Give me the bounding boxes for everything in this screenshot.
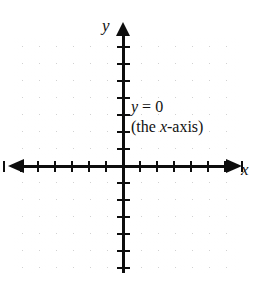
y-axis-tick xyxy=(117,80,130,82)
annotation-variable-x: x xyxy=(160,118,167,135)
y-axis-tick xyxy=(117,233,130,235)
x-axis-tick xyxy=(207,161,209,172)
x-axis-tick xyxy=(71,161,73,172)
dotted-grid xyxy=(13,37,241,273)
x-axis-tick xyxy=(54,161,56,172)
x-axis-tick xyxy=(156,161,158,172)
x-axis-tick xyxy=(173,161,175,172)
y-axis-tick xyxy=(117,46,130,48)
y-axis-tick xyxy=(117,148,130,150)
y-axis-tick xyxy=(117,97,130,99)
annotation-equals-zero: = 0 xyxy=(138,98,163,115)
coordinate-plane-figure: y x y = 0 (the x-axis) xyxy=(0,0,261,281)
x-axis-tick xyxy=(224,161,226,172)
y-axis-tick xyxy=(117,63,130,65)
x-axis-tick xyxy=(3,161,5,172)
y-axis-up-arrow-icon xyxy=(116,22,130,36)
y-axis-tick xyxy=(117,267,130,269)
y-axis-tick xyxy=(117,182,130,184)
y-axis-label: y xyxy=(102,17,110,34)
annotation-paren-open: (the xyxy=(131,118,160,135)
x-axis-tick xyxy=(20,161,22,172)
x-axis-right-arrow-icon xyxy=(226,159,242,173)
y-axis-tick xyxy=(117,131,130,133)
y-axis-tick xyxy=(117,250,130,252)
x-axis-tick xyxy=(139,161,141,172)
y-axis-tick xyxy=(117,199,130,201)
x-axis-tick xyxy=(190,161,192,172)
x-axis-tick xyxy=(37,161,39,172)
x-axis-tick xyxy=(105,161,107,172)
annotation-line-equation: y = 0 xyxy=(131,97,203,117)
y-axis-line xyxy=(122,29,125,273)
y-axis-tick xyxy=(117,114,130,116)
x-axis-label: x xyxy=(241,161,249,178)
equation-annotation: y = 0 (the x-axis) xyxy=(131,97,203,136)
annotation-line-description: (the x-axis) xyxy=(131,117,203,137)
y-axis-tick xyxy=(117,216,130,218)
x-axis-tick xyxy=(88,161,90,172)
annotation-axis-suffix: -axis) xyxy=(167,118,203,135)
